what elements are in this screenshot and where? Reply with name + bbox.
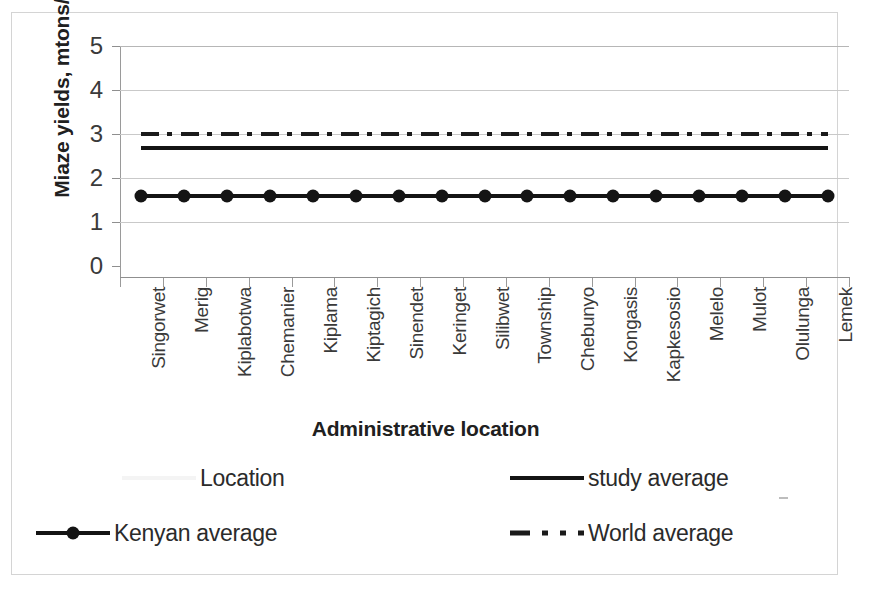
x-axis-category-labels: SingorwetMerigKiplabotwaChemanierKiplama… <box>120 287 850 405</box>
data-point-marker <box>135 190 148 203</box>
legend-label-kenyan-average: Kenyan average <box>114 520 277 547</box>
legend-label-location: Location <box>200 465 285 492</box>
x-tickmark <box>592 278 593 287</box>
x-axis-category-label: Chemanier <box>277 287 299 377</box>
plot-area <box>120 46 849 267</box>
data-point-marker <box>650 190 663 203</box>
data-point-marker <box>692 190 705 203</box>
x-axis-category-label: Chebunyo <box>577 287 599 371</box>
x-axis-category-label: Olulunga <box>792 287 814 361</box>
data-point-marker <box>349 190 362 203</box>
y-tick-label: 5 <box>69 34 103 58</box>
x-axis-category-label: Kiplabotwa <box>234 287 256 377</box>
x-tickmark <box>249 278 250 287</box>
x-tickmark <box>163 278 164 287</box>
data-point-marker <box>521 190 534 203</box>
x-axis-category-label: Melelo <box>706 287 728 341</box>
x-axis-category-label: Merig <box>191 287 213 333</box>
x-axis-category-label: Mulot <box>749 287 771 332</box>
x-tickmark <box>206 278 207 287</box>
x-tickmark <box>463 278 464 287</box>
x-tickmark <box>677 278 678 287</box>
series-world-average <box>141 132 827 136</box>
legend-label-study-average: study average <box>588 465 729 492</box>
legend-swatch-dashdot-line-icon <box>510 522 584 544</box>
data-point-marker <box>478 190 491 203</box>
y-tick-label: 1 <box>69 210 103 234</box>
data-point-marker <box>264 190 277 203</box>
gridline-4 <box>120 90 849 91</box>
x-tickmark <box>292 278 293 287</box>
chart-legend: Location study average Kenyan average Wo… <box>12 461 839 561</box>
legend-swatch-line-marker-icon <box>36 522 110 544</box>
x-tickmark <box>763 278 764 287</box>
gridline-5 <box>120 46 849 47</box>
data-point-marker <box>735 190 748 203</box>
data-point-marker <box>221 190 234 203</box>
data-point-marker <box>435 190 448 203</box>
x-axis-line <box>120 277 850 278</box>
x-axis-category-label: Lemek <box>835 287 857 343</box>
x-tickmark <box>635 278 636 287</box>
data-point-marker <box>392 190 405 203</box>
legend-label-world-average: World average <box>588 520 733 547</box>
legend-item-kenyan-average[interactable]: Kenyan average <box>36 516 277 550</box>
legend-swatch-solid-line-icon <box>510 467 584 489</box>
x-axis-title: Administrative location <box>12 417 839 441</box>
x-tickmark <box>720 278 721 287</box>
y-tickmark <box>112 222 120 223</box>
x-axis-category-label: Kapkesosio <box>663 287 685 382</box>
gridline-2 <box>120 178 849 179</box>
x-axis-category-label: Kongasis <box>620 287 642 363</box>
legend-swatch-location-icon <box>122 467 196 489</box>
y-tickmark <box>112 134 120 135</box>
legend-item-location[interactable]: Location <box>122 461 285 495</box>
data-point-marker <box>564 190 577 203</box>
y-tick-label: 4 <box>69 78 103 102</box>
scan-artifact-mark <box>779 497 788 499</box>
y-tickmark <box>112 46 120 47</box>
y-tickmark <box>112 90 120 91</box>
x-tickmark <box>549 278 550 287</box>
x-axis-category-label: Kiplama <box>320 287 342 354</box>
x-tickmark <box>120 278 121 287</box>
x-tickmark <box>377 278 378 287</box>
data-point-marker <box>607 190 620 203</box>
chart-frame: Miaze yields, mtons/Ha 5 4 3 2 1 0 Singo… <box>11 12 838 575</box>
legend-item-world-average[interactable]: World average <box>510 516 733 550</box>
data-point-marker <box>178 190 191 203</box>
data-point-marker <box>306 190 319 203</box>
x-axis-category-label: Sinendet <box>406 287 428 360</box>
x-axis-category-label: Kiptagich <box>363 287 385 362</box>
y-tick-label: 0 <box>69 254 103 278</box>
y-tickmark <box>112 178 120 179</box>
data-point-marker <box>778 190 791 203</box>
y-tickmark <box>112 266 120 267</box>
series-study-average <box>141 146 827 150</box>
y-tick-label: 2 <box>69 166 103 190</box>
y-tick-label: 3 <box>69 122 103 146</box>
x-axis-category-label: Township <box>534 287 556 364</box>
x-axis-category-label: Keringet <box>449 287 471 355</box>
gridline-1 <box>120 222 849 223</box>
data-point-marker <box>821 190 834 203</box>
x-axis-category-label: Singorwet <box>148 287 170 369</box>
x-tickmark <box>806 278 807 287</box>
x-axis-category-label: Silibwet <box>492 287 514 350</box>
legend-item-study-average[interactable]: study average <box>510 461 729 495</box>
x-tickmark <box>506 278 507 287</box>
